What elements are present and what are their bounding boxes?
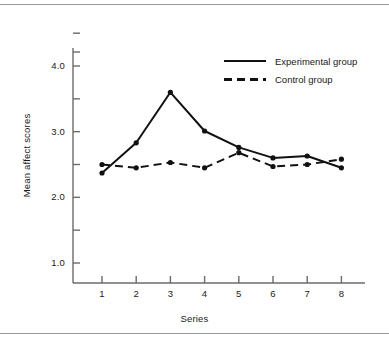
data-point-marker bbox=[339, 165, 344, 170]
y-tick-label: 2.0 bbox=[25, 191, 65, 202]
dashed-line-swatch-icon bbox=[224, 74, 266, 84]
data-point-marker bbox=[339, 157, 344, 162]
data-point-marker bbox=[270, 164, 275, 169]
figure-container: Mean affect scores Series 1.02.03.04.0 1… bbox=[0, 0, 389, 353]
legend-item-control: Control group bbox=[224, 70, 357, 88]
x-tick-label: 2 bbox=[124, 288, 148, 299]
data-point-marker bbox=[134, 165, 139, 170]
data-point-marker bbox=[236, 145, 241, 150]
data-point-marker bbox=[99, 170, 104, 175]
chart-legend: Experimental group Control group bbox=[224, 52, 357, 88]
data-point-marker bbox=[168, 90, 173, 95]
data-point-marker bbox=[99, 162, 104, 167]
x-tick-label: 1 bbox=[90, 288, 114, 299]
data-point-marker bbox=[236, 150, 241, 155]
legend-label-control: Control group bbox=[275, 74, 333, 85]
data-point-marker bbox=[134, 140, 139, 145]
y-axis-title: Mean affect scores bbox=[21, 86, 32, 226]
legend-item-experimental: Experimental group bbox=[224, 52, 357, 70]
data-point-marker bbox=[270, 155, 275, 160]
data-point-marker bbox=[202, 128, 207, 133]
data-point-marker bbox=[305, 153, 310, 158]
x-tick-label: 6 bbox=[261, 288, 285, 299]
data-point-marker bbox=[202, 165, 207, 170]
data-point-marker bbox=[305, 162, 310, 167]
data-series-group bbox=[99, 90, 344, 176]
x-axis-title: Series bbox=[0, 313, 389, 324]
x-tick-label: 4 bbox=[193, 288, 217, 299]
y-tick-label: 3.0 bbox=[25, 126, 65, 137]
y-tick-label: 1.0 bbox=[25, 257, 65, 268]
y-tick-label: 4.0 bbox=[25, 60, 65, 71]
data-point-marker bbox=[168, 160, 173, 165]
x-tick-label: 7 bbox=[295, 288, 319, 299]
solid-line-swatch-icon bbox=[224, 56, 266, 66]
legend-label-experimental: Experimental group bbox=[275, 56, 357, 67]
x-tick-label: 3 bbox=[158, 288, 182, 299]
x-tick-label: 5 bbox=[227, 288, 251, 299]
x-tick-label: 8 bbox=[329, 288, 353, 299]
